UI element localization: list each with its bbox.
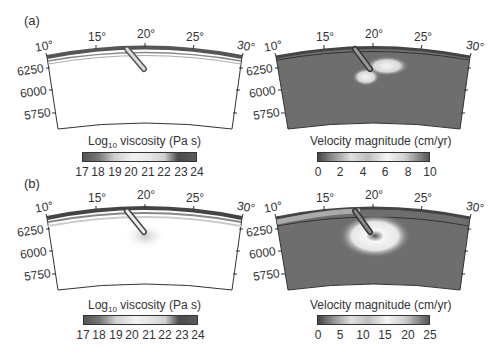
svg-text:25°: 25° [186, 191, 204, 205]
colorbar-b-velocity-title: Velocity magnitude (cm/yr) [310, 298, 451, 312]
svg-text:30°: 30° [465, 199, 485, 216]
svg-text:6000: 6000 [19, 83, 48, 101]
svg-text:25°: 25° [414, 191, 432, 205]
colorbar-a-velocity-title: Velocity magnitude (cm/yr) [310, 134, 451, 148]
svg-text:6000: 6000 [248, 83, 277, 101]
colorbar-b-velocity [317, 315, 430, 325]
svg-text:10°: 10° [34, 38, 54, 55]
colorbar-b-viscosity [83, 315, 198, 325]
colorbar-a-velocity [317, 152, 430, 162]
svg-text:5750: 5750 [23, 266, 52, 284]
colorbar-a-viscosity-title: Log10 viscosity (Pa s) [88, 134, 201, 150]
svg-text:25°: 25° [414, 30, 432, 44]
colorbar-a-viscosity [82, 152, 197, 162]
svg-text:20°: 20° [137, 27, 155, 41]
plot-a-velocity [276, 48, 470, 130]
svg-text:15°: 15° [316, 191, 334, 205]
svg-text:20°: 20° [137, 188, 155, 202]
svg-text:15°: 15° [88, 191, 106, 205]
svg-text:6250: 6250 [16, 61, 45, 79]
svg-text:5750: 5750 [23, 105, 52, 123]
svg-text:30°: 30° [236, 199, 256, 216]
svg-text:6250: 6250 [245, 222, 274, 240]
svg-text:6250: 6250 [16, 222, 45, 240]
svg-text:5750: 5750 [252, 266, 281, 284]
plot-a-viscosity [47, 48, 242, 130]
svg-text:10°: 10° [34, 199, 54, 216]
svg-text:15°: 15° [316, 30, 334, 44]
svg-text:25°: 25° [186, 30, 204, 44]
plot-b-viscosity [47, 208, 242, 290]
plot-b-velocity [276, 208, 470, 290]
svg-text:15°: 15° [88, 30, 106, 44]
svg-text:20°: 20° [365, 27, 383, 41]
svg-text:30°: 30° [465, 38, 485, 55]
svg-text:6250: 6250 [245, 61, 274, 79]
svg-text:5750: 5750 [252, 105, 281, 123]
svg-text:10°: 10° [263, 199, 284, 216]
svg-text:30°: 30° [236, 38, 256, 55]
svg-text:6000: 6000 [19, 244, 48, 262]
svg-text:20°: 20° [365, 188, 383, 202]
svg-text:6000: 6000 [248, 244, 277, 262]
svg-text:10°: 10° [263, 38, 284, 55]
colorbar-b-viscosity-title: Log10 viscosity (Pa s) [88, 298, 201, 314]
